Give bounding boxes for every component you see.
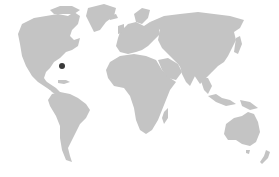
continent-south-america [48, 92, 90, 162]
madagascar [162, 108, 168, 124]
caribbean [58, 80, 70, 84]
arctic-islands [50, 6, 80, 14]
tasmania [246, 150, 250, 154]
continent-north-america [18, 12, 80, 90]
world-map: World map [0, 0, 279, 177]
new-zealand [260, 150, 270, 164]
location-marker-dot[interactable] [59, 63, 65, 69]
continent-australia [224, 112, 260, 146]
indonesia [208, 94, 236, 106]
scandinavia [134, 8, 150, 24]
map-canvas [0, 0, 279, 177]
southeast-asia [200, 78, 212, 94]
new-guinea [240, 100, 258, 110]
